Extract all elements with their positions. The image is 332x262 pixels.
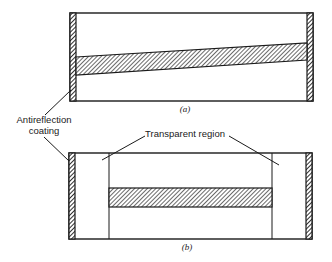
transparent-region-leader-left <box>102 136 145 160</box>
panel-a: (a) <box>70 13 313 114</box>
antireflection-leader-a <box>45 90 71 115</box>
panel-b-waveguide-stripe <box>109 188 272 207</box>
antireflection-label-line2: coating <box>29 125 60 136</box>
panel-b-caption: (b) <box>182 242 193 252</box>
antireflection-label-line1: Antireflection <box>17 114 72 125</box>
transparent-region-label: Transparent region <box>145 128 225 139</box>
antireflection-leader-b <box>44 137 69 161</box>
panel-b-right-coating <box>306 153 312 239</box>
panel-a-tilted-waveguide-stripe <box>76 43 307 75</box>
transparent-region-leader-right <box>229 136 279 165</box>
panel-b: (b) <box>69 153 312 252</box>
panel-a-caption: (a) <box>180 104 191 114</box>
panel-b-left-coating <box>69 153 75 239</box>
waveguide-figure: (a) (b) Antireflection coating Transpare… <box>0 0 332 262</box>
panel-a-left-coating <box>70 13 76 101</box>
panel-a-right-coating <box>307 13 313 101</box>
